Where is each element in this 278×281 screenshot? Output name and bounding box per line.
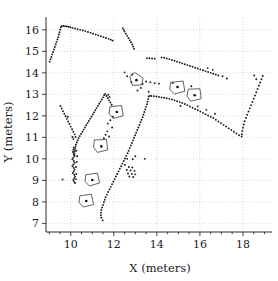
y-tick-label: 15 (25, 45, 39, 58)
tick-marks (42, 30, 264, 236)
scan-point (223, 124, 225, 126)
scan-point (123, 29, 125, 31)
scan-point (151, 57, 153, 59)
scan-point (79, 29, 81, 31)
scan-point (181, 62, 183, 64)
scan-point (101, 207, 103, 209)
scan-point (148, 96, 150, 98)
scan-point (65, 115, 67, 117)
scan-point (69, 26, 71, 28)
scan-point (186, 104, 188, 106)
scan-point (73, 174, 75, 176)
scan-point (212, 69, 214, 71)
scan-point (192, 107, 194, 109)
scan-point (61, 108, 63, 110)
landmark-center-point (91, 179, 94, 182)
scan-point (70, 126, 72, 128)
landmark-center-point (176, 86, 179, 89)
scan-point (104, 199, 106, 201)
scan-point (189, 105, 191, 107)
scan-point (253, 74, 255, 76)
scan-point (59, 105, 61, 107)
scan-point-series (49, 25, 264, 221)
scan-point (105, 134, 107, 136)
scan-point (74, 176, 76, 178)
y-tick-label: 10 (25, 153, 39, 166)
scan-point (78, 137, 80, 139)
scan-point (194, 108, 196, 110)
scan-point (124, 157, 126, 159)
scan-point (171, 59, 173, 61)
scan-point (77, 139, 79, 141)
scan-point (56, 41, 58, 43)
scan-point (87, 31, 89, 33)
scan-point (189, 65, 191, 67)
scan-point (75, 136, 77, 138)
scan-point (135, 132, 137, 134)
scan-point (245, 117, 247, 119)
scan-point (112, 181, 114, 183)
scan-point (103, 201, 105, 203)
scan-point (251, 101, 253, 103)
scan-point (226, 77, 228, 79)
scan-point (100, 212, 102, 214)
scan-point (184, 63, 186, 65)
scan-point (72, 27, 74, 29)
scan-point (73, 167, 75, 169)
scan-point (163, 57, 165, 59)
scan-point (140, 121, 142, 123)
scan-point (147, 101, 149, 103)
scan-point (261, 78, 263, 80)
scan-point (50, 56, 52, 58)
scan-point (72, 151, 74, 153)
scan-point (202, 112, 204, 114)
scan-point (138, 124, 140, 126)
scan-point (75, 150, 77, 152)
scan-point (61, 25, 63, 27)
scan-point (194, 67, 196, 69)
scan-point (96, 107, 98, 109)
landmark-center-point (100, 145, 103, 148)
scan-point (90, 32, 92, 34)
scan-point (241, 136, 243, 138)
scan-point (95, 34, 97, 36)
scan-point (62, 25, 64, 27)
scan-point (205, 109, 207, 111)
gridlines (46, 18, 272, 232)
scan-point (154, 58, 156, 60)
scan-point (241, 133, 243, 135)
plot-canvas: 1012141618 78910111213141516 X (meters) … (0, 0, 278, 281)
scan-point (253, 98, 255, 100)
scan-point (143, 111, 145, 113)
scan-point (81, 131, 83, 133)
scan-point (49, 61, 51, 63)
scan-point (199, 68, 201, 70)
scan-point (192, 66, 194, 68)
scan-point (90, 116, 92, 118)
scan-point (124, 71, 126, 73)
scan-point (197, 109, 199, 111)
scan-point (134, 134, 136, 136)
scan-point (146, 57, 148, 59)
scan-point (149, 81, 151, 83)
scan-point (126, 169, 128, 171)
scan-point (127, 37, 129, 39)
scan-point (106, 95, 108, 97)
scan-point (88, 120, 90, 122)
scan-point (146, 103, 148, 105)
scan-point (214, 113, 216, 115)
scan-point (111, 183, 113, 185)
scan-point (212, 117, 214, 119)
scan-point (217, 74, 219, 76)
landmark-polygons (79, 72, 201, 207)
scan-point (212, 73, 214, 75)
axis-spine (46, 17, 272, 232)
scan-point (73, 153, 75, 155)
scan-point (71, 128, 73, 130)
scan-point (145, 81, 147, 83)
scan-point (186, 64, 188, 66)
scan-point (115, 176, 117, 178)
scan-point (109, 188, 111, 190)
scan-point (124, 164, 126, 166)
x-tick-label: 16 (193, 238, 207, 251)
